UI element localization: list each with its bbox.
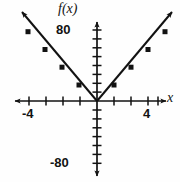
- y-tick-label-80: 80: [56, 23, 70, 36]
- coordinate-plane-svg: [0, 0, 180, 182]
- y-axis-title: f(x): [58, 2, 77, 16]
- x-tick-label-4: 4: [143, 107, 150, 120]
- data-point: [77, 83, 82, 88]
- data-point: [112, 83, 117, 88]
- x-tick-label-neg4: -4: [22, 107, 34, 120]
- graph-figure: f(x) 80 -80 -4 4 x: [0, 0, 180, 182]
- x-axis: [15, 97, 166, 106]
- data-point: [163, 29, 168, 34]
- data-point: [129, 65, 134, 70]
- data-point: [26, 29, 31, 34]
- data-point: [43, 47, 48, 52]
- y-axis: [93, 22, 102, 176]
- data-point: [146, 47, 151, 52]
- y-tick-label-neg80: -80: [50, 156, 69, 169]
- data-point: [60, 65, 65, 70]
- x-axis-title: x: [167, 91, 173, 105]
